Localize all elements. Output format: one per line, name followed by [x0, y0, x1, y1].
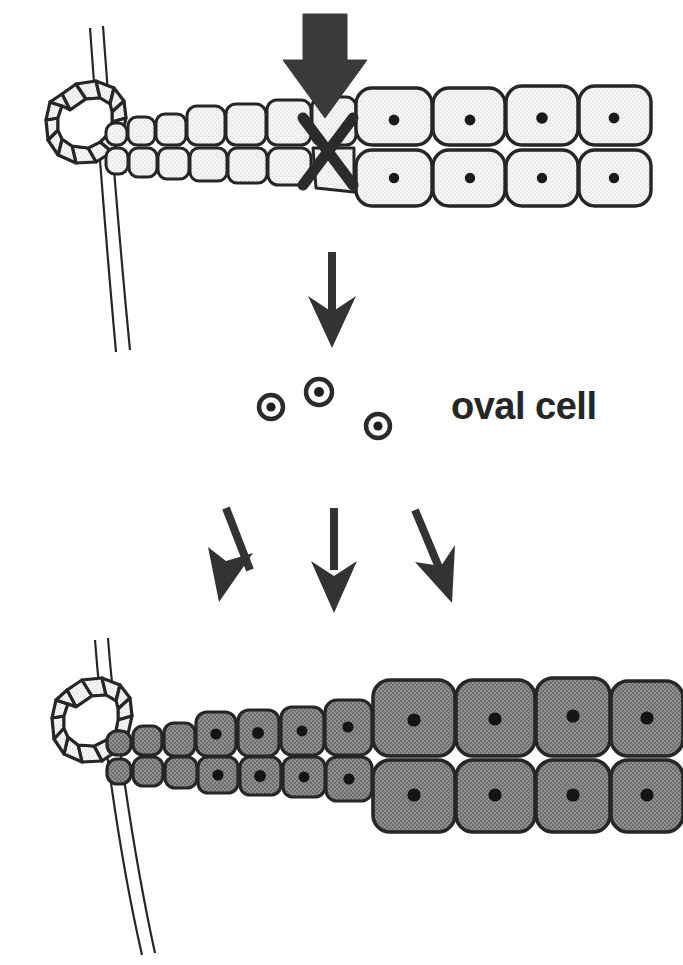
- cell-medium: [226, 104, 266, 145]
- nucleus: [640, 711, 653, 724]
- cell-small: [133, 757, 163, 786]
- nucleus: [297, 726, 308, 737]
- nucleus: [465, 115, 476, 126]
- nucleus: [210, 728, 221, 739]
- cell-medium: [187, 106, 225, 145]
- nucleus: [488, 712, 501, 725]
- nucleus: [254, 770, 266, 782]
- nucleus: [566, 709, 579, 722]
- hepatocyte-large-lower-bottom: [373, 760, 683, 832]
- cell-small: [106, 148, 128, 174]
- nucleus: [566, 788, 579, 801]
- nucleus: [389, 173, 399, 183]
- oval-cell-1: [259, 395, 283, 419]
- nucleus: [342, 721, 353, 732]
- nucleus: [536, 112, 548, 124]
- oval-cell-diagram: oval cell: [0, 0, 683, 965]
- hepatocyte-large-upper-bottom: [373, 678, 683, 756]
- nucleus: [537, 173, 547, 183]
- hepatocyte-large-lower-top: [356, 150, 651, 206]
- nucleus: [407, 713, 420, 726]
- oval-cell-3: [366, 414, 390, 438]
- figure-root: oval cell: [0, 0, 683, 965]
- cell-small: [133, 726, 162, 755]
- cell-small: [129, 148, 157, 177]
- nucleus: [609, 113, 620, 124]
- oval-cell-2: [306, 379, 332, 405]
- nucleus: [299, 772, 310, 783]
- nucleus: [465, 173, 475, 183]
- cell-small: [164, 723, 195, 756]
- cell-small: [107, 731, 131, 755]
- cell-medium: [190, 148, 227, 181]
- nucleus: [407, 788, 420, 801]
- nucleus: [212, 769, 223, 780]
- cell-small: [158, 148, 189, 179]
- nucleus: [488, 788, 501, 801]
- cell-medium: [228, 148, 267, 183]
- hepatocyte-large-upper-top: [356, 86, 651, 145]
- nucleus: [609, 173, 619, 183]
- nucleus: [640, 788, 653, 801]
- cell-small: [106, 123, 127, 145]
- oval-cell-label: oval cell: [451, 385, 596, 427]
- cell-small: [156, 114, 186, 145]
- nucleus: [389, 115, 400, 126]
- nucleus: [343, 773, 354, 784]
- nucleus: [252, 727, 264, 739]
- cell-small: [165, 757, 197, 788]
- cell-small: [128, 117, 155, 145]
- cell-small: [107, 759, 131, 784]
